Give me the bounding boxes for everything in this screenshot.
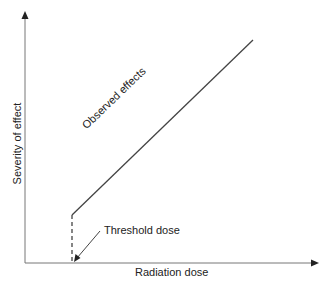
y-axis-label: Severity of effect bbox=[12, 89, 23, 199]
threshold-dose-label: Threshold dose bbox=[104, 225, 180, 236]
x-axis-arrow-icon bbox=[311, 260, 319, 267]
chart-canvas bbox=[0, 0, 325, 286]
y-axis-arrow-icon bbox=[22, 11, 29, 19]
x-axis-label: Radiation dose bbox=[135, 267, 208, 278]
observed-effects-line bbox=[72, 40, 253, 215]
threshold-arrow-line bbox=[77, 231, 100, 258]
